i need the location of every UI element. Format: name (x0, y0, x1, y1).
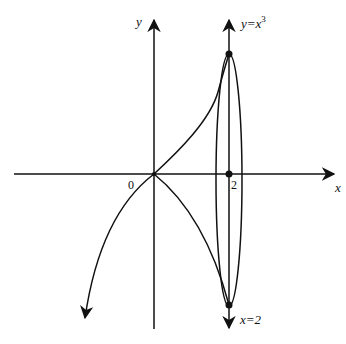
y-axis-label: y (134, 14, 142, 29)
x-axis-label: x (334, 180, 341, 195)
diagram: y x 0 2 y=x3 x=2 (0, 0, 346, 344)
point-x2 (226, 171, 233, 178)
tick-label-2: 2 (231, 178, 237, 192)
line-label: x=2 (239, 312, 262, 327)
curve-label-base: y=x (239, 16, 262, 31)
origin-label: 0 (128, 178, 134, 192)
curve-label: y=x3 (239, 14, 266, 31)
curve-left-branch (85, 174, 154, 318)
point-top (226, 51, 233, 58)
point-origin (152, 172, 156, 176)
curve-label-exp: 3 (261, 14, 266, 24)
point-bottom (226, 302, 233, 309)
